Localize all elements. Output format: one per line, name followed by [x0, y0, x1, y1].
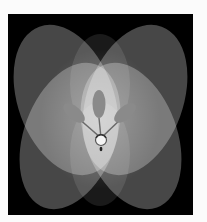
middle-leaf-icon [93, 90, 106, 118]
artwork-canvas [8, 14, 193, 215]
center-glow [40, 49, 160, 189]
overlapping-ellipses-graphic [8, 14, 193, 215]
ball-tip-icon [100, 147, 103, 151]
